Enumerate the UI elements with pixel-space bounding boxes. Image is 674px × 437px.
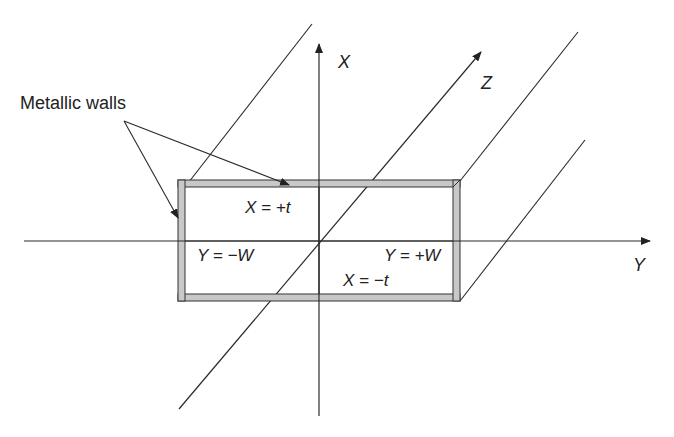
z-axis-label: Z <box>481 74 492 92</box>
z-axis <box>179 52 481 409</box>
callout-arrow-top <box>124 121 289 185</box>
edge-bottom-right <box>460 140 585 301</box>
x-axis-label: X <box>338 53 350 71</box>
edge-top-left <box>185 24 312 187</box>
callout-label-metallic-walls: Metallic walls <box>20 94 126 112</box>
boundary-label-bottom: X = −t <box>343 272 388 289</box>
boundary-label-top: X = +t <box>245 199 290 216</box>
y-axis-label: Y <box>633 256 645 274</box>
diagram-graphics <box>0 0 674 437</box>
edge-top-right <box>460 32 578 181</box>
callout-arrow-left <box>124 121 178 218</box>
boundary-label-left: Y = −W <box>197 247 253 264</box>
boundary-label-right: Y = +W <box>384 247 440 264</box>
waveguide-diagram: Metallic walls X Z Y X = +t Y = −W Y = +… <box>0 0 674 437</box>
